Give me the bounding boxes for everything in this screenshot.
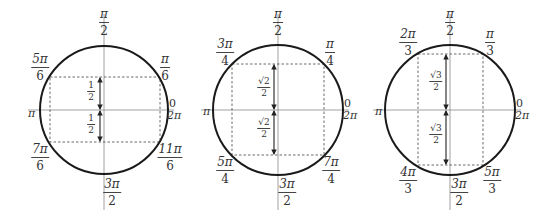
label-pi-over-3: π3 <box>485 28 495 57</box>
label-4pi-over-3: 4π3 <box>399 166 417 195</box>
label-upper-one-half: 12 <box>87 81 95 102</box>
label-2pi-over-3: 2π3 <box>399 28 417 57</box>
label-upper-root3-over-2: √32 <box>429 71 442 92</box>
label-3pi-over-2: 3π2 <box>278 178 296 207</box>
label-5pi-over-3: 5π3 <box>483 166 501 195</box>
label-lower-root3-over-2: √32 <box>429 124 442 145</box>
label-zero: 0 <box>169 98 176 109</box>
label-pi-over-2: π2 <box>273 8 283 37</box>
label-7pi-over-6: 7π6 <box>31 143 49 172</box>
dashed-rectangle <box>418 54 483 165</box>
label-3pi-over-4: 3π4 <box>216 38 234 67</box>
label-7pi-over-4: 7π4 <box>322 156 340 185</box>
label-lower-one-half: 12 <box>87 114 95 135</box>
label-2pi: 2π <box>167 110 181 121</box>
label-pi-over-2: π2 <box>99 8 109 37</box>
label-pi-over-2: π2 <box>445 8 455 37</box>
label-pi-over-6: π6 <box>160 53 170 82</box>
diagram-stage: π2 3π2 π6 5π6 7π6 11π6 π 0 2π 12 12 π2 3… <box>0 0 558 219</box>
label-pi: π <box>203 106 210 117</box>
dashed-rectangle <box>50 77 160 142</box>
label-5pi-over-4: 5π4 <box>216 156 234 185</box>
label-zero: 0 <box>344 98 351 109</box>
label-3pi-over-2: 3π2 <box>450 178 468 207</box>
label-2pi: 2π <box>343 110 357 121</box>
label-upper-root2-over-2: √22 <box>257 77 270 98</box>
label-5pi-over-6: 5π6 <box>31 53 49 82</box>
label-zero: 0 <box>516 98 523 109</box>
label-pi: π <box>375 106 382 117</box>
label-2pi: 2π <box>515 110 529 121</box>
label-lower-root2-over-2: √22 <box>257 118 270 139</box>
label-pi-over-4: π4 <box>325 38 335 67</box>
label-pi: π <box>28 108 35 119</box>
label-11pi-over-6: 11π6 <box>157 143 182 172</box>
label-3pi-over-2: 3π2 <box>103 178 121 207</box>
